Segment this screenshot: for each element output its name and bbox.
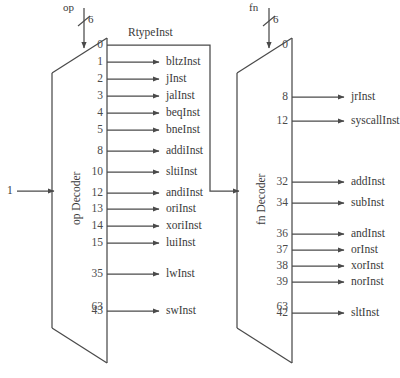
- op-output-label-addiinst: addiInst: [166, 145, 203, 157]
- op-input-port-label: op: [63, 2, 74, 13]
- op-output-label-swinst: swInst: [166, 305, 196, 317]
- fn-bus-width-label: 6: [273, 14, 279, 25]
- op-pin-number-2: 2: [84, 73, 103, 85]
- op-pin-number-14: 14: [78, 220, 103, 232]
- op-output-label-oriinst: oriInst: [166, 203, 196, 215]
- op-pin-number-13: 13: [78, 203, 103, 215]
- fn-pin-number-36: 36: [263, 228, 288, 240]
- op-pin-number-15: 15: [78, 237, 103, 249]
- op-pin-number-8: 8: [84, 145, 103, 157]
- op-output-label-beqinst: beqInst: [166, 107, 200, 119]
- fn-pin-number-32: 32: [263, 176, 288, 188]
- fn-decoder-output-wires: [292, 97, 344, 313]
- op-output-label-jalinst: jalInst: [166, 90, 195, 102]
- op-pin-number-43: 43: [78, 305, 103, 317]
- op-output-label-bltzinst: bltzInst: [166, 56, 201, 68]
- op-output-label-sltiinst: sltiInst: [166, 166, 197, 178]
- fn-output-label-norinst: norInst: [351, 276, 384, 288]
- fn-output-label-xorinst: xorInst: [351, 260, 384, 272]
- op-output-label-andiinst: andiInst: [166, 187, 203, 199]
- op-pin-number-12: 12: [78, 187, 103, 199]
- fn-input-port-label: fn: [249, 2, 258, 13]
- op-output-label-lwinst: lwInst: [166, 268, 195, 280]
- fn-output-label-jrinst: jrInst: [351, 91, 375, 103]
- op-pin-number-3: 3: [84, 90, 103, 102]
- fn-pin-number-12: 12: [263, 115, 288, 127]
- fn-pin-number-34: 34: [263, 197, 288, 209]
- op-pin-number-4: 4: [84, 107, 103, 119]
- op-output-label-bneinst: bneInst: [166, 124, 200, 136]
- fn-output-label-orinst: orInst: [351, 244, 378, 256]
- fn-output-label-andinst: andInst: [351, 228, 385, 240]
- fn-output-label-sltinst: sltInst: [351, 307, 379, 319]
- fn-output-label-syscallinst: syscallInst: [351, 115, 400, 127]
- op-output-label-luiinst: luiInst: [166, 237, 195, 249]
- fn-pin-number-39: 39: [263, 276, 288, 288]
- op-pin-number-1: 1: [84, 56, 103, 68]
- op-bus-width-label: 6: [88, 14, 94, 25]
- op-decoder-output-wires: [107, 62, 159, 311]
- rtypeinst-signal-label: RtypeInst: [128, 27, 173, 39]
- op-pin-number-first: 0: [86, 39, 103, 51]
- op-pin-number-10: 10: [78, 166, 103, 178]
- op-pin-number-5: 5: [84, 124, 103, 136]
- fn-pin-number-42: 42: [263, 307, 288, 319]
- fn-output-label-addinst: addInst: [351, 176, 385, 188]
- fn-pin-number-38: 38: [263, 260, 288, 272]
- op-output-label-jinst: jInst: [166, 73, 186, 85]
- op-output-label-xoriinst: xoriInst: [166, 220, 202, 232]
- op-pin-number-35: 35: [78, 268, 103, 280]
- fn-pin-number-37: 37: [263, 244, 288, 256]
- fn-pin-number-8: 8: [269, 91, 288, 103]
- op-enable-constant-label: 1: [7, 185, 13, 197]
- fn-pin-number-first: 0: [271, 39, 288, 51]
- fn-output-label-subinst: subInst: [351, 197, 384, 209]
